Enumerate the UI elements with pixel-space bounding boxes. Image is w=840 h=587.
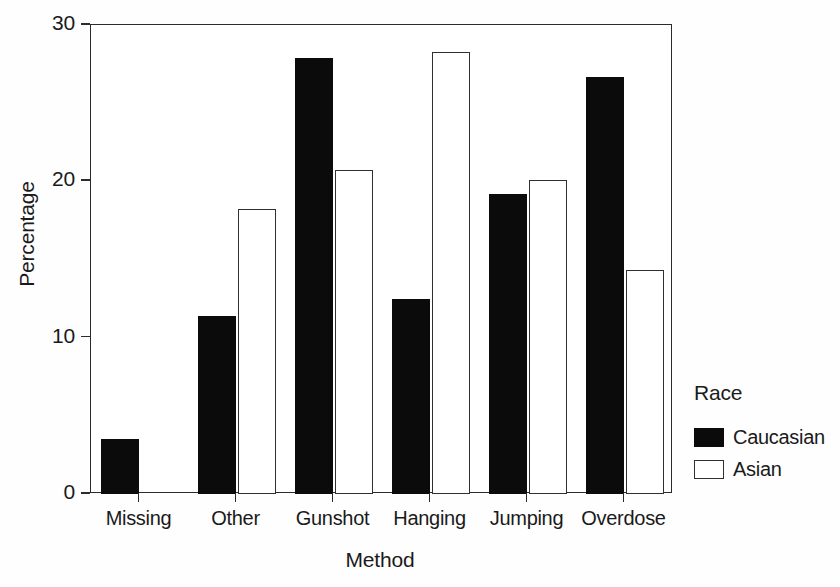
legend-item-asian: Asian: [694, 458, 834, 481]
bar-other-asian: [238, 209, 276, 494]
y-tick-label: 10: [52, 324, 75, 348]
bar-overdose-caucasian: [586, 77, 624, 494]
bar-hanging-asian: [432, 52, 470, 494]
bar-overdose-asian: [626, 270, 664, 494]
bar-gunshot-caucasian: [295, 58, 333, 494]
chart-page: Percentage 0102030 MissingOtherGunshotHa…: [0, 0, 840, 587]
bar-missing-caucasian: [101, 439, 139, 494]
y-tick-mark: [81, 336, 90, 338]
y-tick-mark: [81, 23, 90, 25]
x-tick-mark: [332, 493, 334, 502]
x-tick-mark: [623, 493, 625, 502]
legend-label-caucasian: Caucasian: [733, 426, 825, 449]
legend-label-asian: Asian: [733, 458, 782, 481]
y-tick-label: 20: [52, 167, 75, 191]
plot-area: [90, 24, 672, 493]
x-tick-mark: [429, 493, 431, 502]
bar-hanging-caucasian: [392, 299, 430, 494]
x-axis-title: Method: [0, 548, 760, 572]
bar-other-caucasian: [198, 316, 236, 494]
x-tick-mark: [235, 493, 237, 502]
y-axis-title: Percentage: [15, 124, 39, 344]
legend-title: Race: [694, 381, 834, 405]
y-tick-mark: [81, 492, 90, 494]
y-tick-label: 30: [52, 11, 75, 35]
legend-entries: CaucasianAsian: [694, 426, 834, 481]
bar-jumping-caucasian: [489, 194, 527, 494]
bar-jumping-asian: [529, 180, 567, 494]
legend-swatch-asian: [694, 460, 724, 479]
y-tick-label: 0: [64, 480, 75, 504]
legend-item-caucasian: Caucasian: [694, 426, 834, 449]
x-tick-mark: [138, 493, 140, 502]
x-tick-mark: [526, 493, 528, 502]
legend: Race CaucasianAsian: [694, 381, 834, 490]
x-tick-label-overdose: Overdose: [554, 505, 694, 531]
y-tick-mark: [81, 179, 90, 181]
bar-gunshot-asian: [335, 170, 373, 494]
legend-swatch-caucasian: [694, 428, 724, 447]
